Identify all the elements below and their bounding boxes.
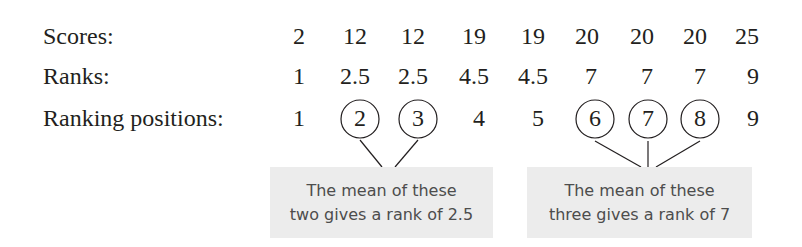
note-line: three gives a rank of 7 [527,203,752,227]
position-value-circled: 8 [670,105,730,132]
position-value-circled: 7 [618,105,678,132]
position-value-circled: 6 [565,105,625,132]
note-three-tied: The mean of these three gives a rank of … [527,167,752,238]
ranking-positions-label: Ranking positions: [43,105,224,132]
note-line: The mean of these [270,179,493,203]
ranking-positions-row: Ranking positions: 1 2 3 4 5 6 7 8 9 [0,105,802,135]
position-value-circled: 3 [388,105,448,132]
position-value: 9 [723,105,783,132]
position-value: 4 [449,105,509,132]
note-two-tied: The mean of these two gives a rank of 2.… [270,167,493,238]
position-value-circled: 2 [330,105,390,132]
note-line: The mean of these [527,179,752,203]
position-value: 1 [269,105,329,132]
note-line: two gives a rank of 2.5 [270,203,493,227]
position-value: 5 [508,105,568,132]
